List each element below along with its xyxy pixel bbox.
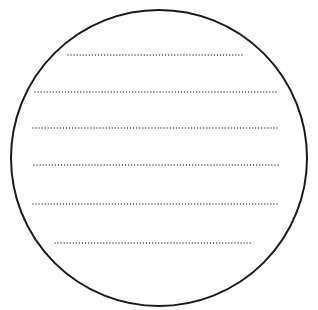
guide-dot	[275, 91, 276, 92]
guide-dot	[146, 242, 147, 243]
guide-dot	[142, 127, 143, 128]
guide-dot	[230, 91, 231, 92]
guide-dot	[64, 164, 65, 165]
guide-dot	[176, 203, 177, 204]
guide-dot	[36, 164, 37, 165]
guide-dot	[32, 203, 33, 204]
guide-dot	[37, 91, 38, 92]
guide-dot	[234, 127, 235, 128]
guide-dot	[136, 203, 137, 204]
guide-dot	[225, 203, 226, 204]
guide-dot	[67, 164, 68, 165]
guide-dot	[261, 127, 262, 128]
guide-dot	[138, 91, 139, 92]
guide-dot	[101, 164, 102, 165]
guide-dot	[49, 164, 50, 165]
guide-dot	[216, 242, 217, 243]
guide-dot	[177, 54, 178, 55]
guide-dot	[101, 54, 102, 55]
guide-dot	[255, 127, 256, 128]
guide-dot	[79, 164, 80, 165]
guide-dot	[134, 242, 135, 243]
guide-dot	[226, 164, 227, 165]
guide-dot	[168, 54, 169, 55]
guide-dot	[197, 127, 198, 128]
guide-dot	[67, 54, 68, 55]
guide-dot	[34, 91, 35, 92]
guide-dot	[128, 164, 129, 165]
guide-dot	[83, 91, 84, 92]
guide-dot	[137, 242, 138, 243]
guide-dot	[154, 127, 155, 128]
guide-dot	[116, 164, 117, 165]
guide-dot	[231, 203, 232, 204]
guide-dot	[196, 54, 197, 55]
guide-dot	[196, 91, 197, 92]
guide-dot	[97, 242, 98, 243]
guide-dot	[220, 54, 221, 55]
guide-dot	[103, 242, 104, 243]
guide-dot	[179, 203, 180, 204]
guide-dot	[248, 91, 249, 92]
guide-dot	[216, 164, 217, 165]
guide-dot	[89, 54, 90, 55]
guide-dot	[183, 242, 184, 243]
guide-dot	[141, 54, 142, 55]
guide-dot	[204, 242, 205, 243]
guide-dot	[115, 127, 116, 128]
guide-dot	[246, 203, 247, 204]
guide-dot	[162, 54, 163, 55]
guide-dot	[58, 164, 59, 165]
guide-dot	[133, 203, 134, 204]
guide-dot	[71, 91, 72, 92]
guide-dot	[122, 164, 123, 165]
guide-dot	[152, 164, 153, 165]
guide-dot	[222, 203, 223, 204]
guide-dot	[247, 164, 248, 165]
guide-dot	[92, 54, 93, 55]
guide-dot	[87, 127, 88, 128]
guide-dot	[273, 127, 274, 128]
guide-dot	[205, 91, 206, 92]
guide-dot	[133, 127, 134, 128]
guide-dot	[272, 91, 273, 92]
guide-dot	[193, 91, 194, 92]
guide-dot	[241, 164, 242, 165]
guide-dot	[171, 164, 172, 165]
guide-dot	[239, 91, 240, 92]
guide-dot	[48, 127, 49, 128]
circle-outline	[11, 10, 307, 306]
guide-dot	[35, 203, 36, 204]
guide-dot	[106, 203, 107, 204]
guide-dot	[70, 54, 71, 55]
guide-dot	[125, 164, 126, 165]
guide-dot	[143, 242, 144, 243]
guide-dot	[171, 54, 172, 55]
guide-dot	[94, 164, 95, 165]
guide-dot	[74, 54, 75, 55]
guide-dot	[140, 164, 141, 165]
guide-dot	[176, 242, 177, 243]
guide-dot	[86, 54, 87, 55]
dotted-guide-line	[33, 164, 278, 165]
guide-dot	[226, 54, 227, 55]
guide-dot	[111, 91, 112, 92]
guide-dot	[148, 127, 149, 128]
guide-dot	[93, 203, 94, 204]
dotted-guide-line	[32, 127, 277, 128]
dotted-guide-line	[32, 203, 277, 204]
guide-dot	[77, 91, 78, 92]
guide-dot	[69, 203, 70, 204]
guide-dot	[176, 127, 177, 128]
guide-dot	[63, 203, 64, 204]
guide-dot	[144, 54, 145, 55]
guide-dot	[250, 242, 251, 243]
guide-dot	[198, 164, 199, 165]
guide-dot	[87, 203, 88, 204]
guide-dot	[200, 203, 201, 204]
guide-dot	[233, 91, 234, 92]
guide-dot	[223, 54, 224, 55]
guide-dot	[46, 164, 47, 165]
guide-dot	[156, 54, 157, 55]
guide-dot	[174, 54, 175, 55]
